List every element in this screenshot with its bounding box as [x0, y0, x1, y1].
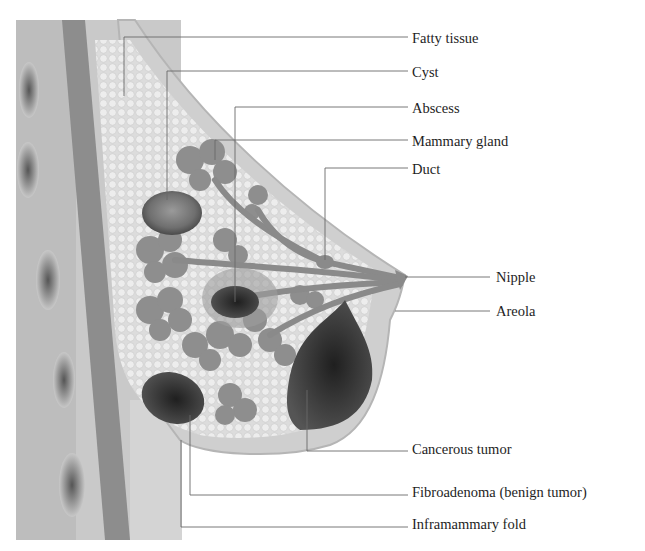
- label-duct: Duct: [412, 160, 440, 178]
- label-nipple: Nipple: [496, 268, 535, 286]
- label-fatty-tissue: Fatty tissue: [412, 29, 478, 47]
- label-mammary-gland: Mammary gland: [412, 132, 508, 150]
- breast-anatomy-illustration: [0, 0, 645, 551]
- label-cancerous-tumor: Cancerous tumor: [412, 440, 511, 458]
- cyst-shape: [142, 191, 202, 235]
- label-abscess: Abscess: [412, 99, 460, 117]
- label-inframammary-fold: Inframammary fold: [412, 515, 526, 533]
- label-cyst: Cyst: [412, 63, 439, 81]
- label-fibroadenoma: Fibroadenoma (benign tumor): [412, 483, 587, 501]
- label-areola: Areola: [496, 302, 535, 320]
